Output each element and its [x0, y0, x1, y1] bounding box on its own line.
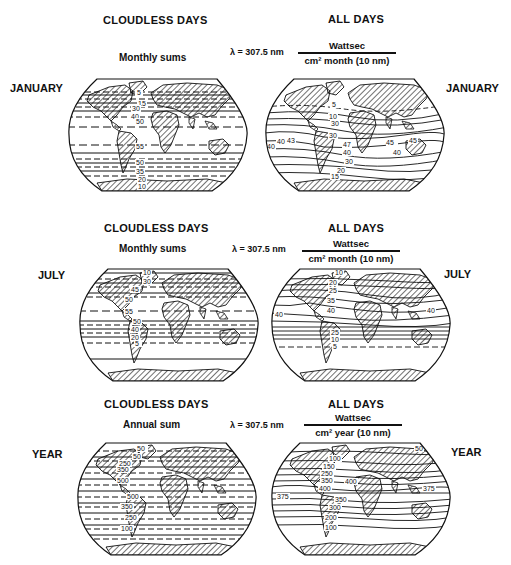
contour-label: 100 [325, 524, 337, 531]
contour-label: 250 [321, 470, 333, 477]
contour-label: 40 [427, 307, 435, 314]
contour-label: 40 [327, 307, 335, 314]
contour-label: 400 [345, 478, 357, 485]
unit-denominator: cm² month (10 nm) [298, 54, 396, 66]
unit-numerator: Wattsec [298, 40, 396, 52]
contour-label: 30 [143, 278, 151, 285]
contour-label: 375 [423, 485, 435, 492]
contour-label: 45 [131, 286, 139, 293]
contour-label: 40 [267, 143, 275, 150]
contour-label: 25 [331, 329, 339, 336]
contour-label: 55 [136, 143, 144, 150]
left-column-header-jul: CLOUDLESS DAYS [104, 222, 209, 234]
contour-label: 30 [329, 132, 337, 139]
contour-label: 10 [143, 269, 151, 276]
map-july-all-days: 10 20 25 35 40 40 40 25 10 5 [270, 267, 454, 385]
contour-label: 350 [335, 496, 347, 503]
contour-label: 250 [125, 514, 137, 521]
contour-label: 5 [135, 340, 139, 347]
contour-label: 20 [138, 176, 146, 183]
contour-label: 500 [117, 477, 129, 484]
map-january-cloudless: 5 15 30 40 50 55 50 35 20 10 [67, 77, 251, 195]
row-label-right-jan: JANUARY [446, 82, 499, 94]
unit-fraction-jan: Wattsec cm² month (10 nm) [298, 40, 396, 66]
row-label-left-jan: JANUARY [10, 82, 63, 94]
contour-label: 55 [125, 308, 133, 315]
contour-label: 43 [287, 137, 295, 144]
map-july-cloudless: 10 30 45 50 55 50 40 20 5 [78, 267, 262, 385]
contour-label: 50 [125, 296, 133, 303]
contour-label: 10 [329, 113, 337, 120]
contour-label: 40 [131, 326, 139, 333]
contour-label: 15 [331, 173, 339, 180]
unit-numerator: Wattsec [304, 412, 402, 424]
contour-label: 40 [275, 311, 283, 318]
contour-label: 40 [393, 149, 401, 156]
contour-label: 5 [137, 89, 141, 96]
contour-label: 50 [136, 159, 144, 166]
contour-label: 40 [343, 149, 351, 156]
contour-label: 350 [117, 466, 129, 473]
contour-label: 40 [277, 138, 285, 145]
map-january-all-days: 10 5 10 30 30 40 43 40 45 47 40 45 40 [264, 77, 448, 195]
contour-label: 10 [335, 269, 343, 276]
contour-label: 350 [121, 503, 133, 510]
left-subtitle-jul: Monthly sums [119, 243, 186, 254]
right-column-header-jul: ALL DAYS [328, 222, 384, 234]
contour-label: 45 [386, 139, 394, 146]
left-subtitle-jan: Monthly sums [119, 52, 186, 63]
contour-label: 30 [132, 105, 140, 112]
contour-label: 45 [409, 137, 417, 144]
row-label-right-year: YEAR [451, 446, 482, 458]
contour-label: 10 [331, 336, 339, 343]
left-subtitle-year: Annual sum [123, 419, 180, 430]
contour-label: 300 [329, 504, 341, 511]
unit-denominator: cm² month (10 nm) [302, 252, 400, 264]
wavelength-label-jan: λ = 307.5 nm [230, 47, 284, 57]
row-label-left-jul: JULY [38, 269, 65, 281]
unit-denominator: cm² year (10 nm) [304, 426, 402, 438]
wavelength-label-jul: λ = 307.5 nm [232, 244, 286, 254]
contour-label: 400 [319, 485, 331, 492]
contour-label: 500 [127, 493, 139, 500]
contour-label: 50 [415, 445, 423, 452]
contour-label: 150 [323, 463, 335, 470]
unit-numerator: Wattsec [302, 238, 400, 250]
contour-label: 350 [321, 477, 333, 484]
contour-label: 50 [137, 445, 145, 452]
unit-fraction-jul: Wattsec cm² month (10 nm) [302, 238, 400, 264]
contour-label: 5 [333, 343, 337, 350]
contour-label: 50 [133, 318, 141, 325]
contour-label: 50 [133, 453, 141, 460]
unit-fraction-year: Wattsec cm² year (10 nm) [304, 412, 402, 438]
left-column-header-jan: CLOUDLESS DAYS [103, 14, 208, 26]
contour-label: 20 [329, 279, 337, 286]
wavelength-label-year: λ = 307.5 nm [230, 420, 284, 430]
left-column-header-year: CLOUDLESS DAYS [104, 398, 209, 410]
contour-label: 35 [136, 168, 144, 175]
right-column-header-jan: ALL DAYS [328, 13, 384, 25]
row-label-left-year: YEAR [32, 448, 63, 460]
map-annual-all-days: 50 100 150 250 350 400 400 375 375 350 3… [270, 441, 454, 559]
contour-label: 200 [325, 514, 337, 521]
contour-label: 5 [332, 101, 336, 108]
map-annual-cloudless: 50 50 250 350 500 500 350 250 100 [76, 441, 260, 559]
contour-label: 375 [277, 493, 289, 500]
contour-label: 30 [345, 158, 353, 165]
contour-label: 50 [136, 118, 144, 125]
contour-label: 47 [343, 141, 351, 148]
right-column-header-year: ALL DAYS [328, 398, 384, 410]
contour-label: 35 [327, 297, 335, 304]
contour-label: 10 [138, 183, 146, 190]
contour-label: 100 [121, 525, 133, 532]
contour-label: 100 [329, 455, 341, 462]
contour-label: 25 [329, 287, 337, 294]
contour-label: 30 [331, 120, 339, 127]
